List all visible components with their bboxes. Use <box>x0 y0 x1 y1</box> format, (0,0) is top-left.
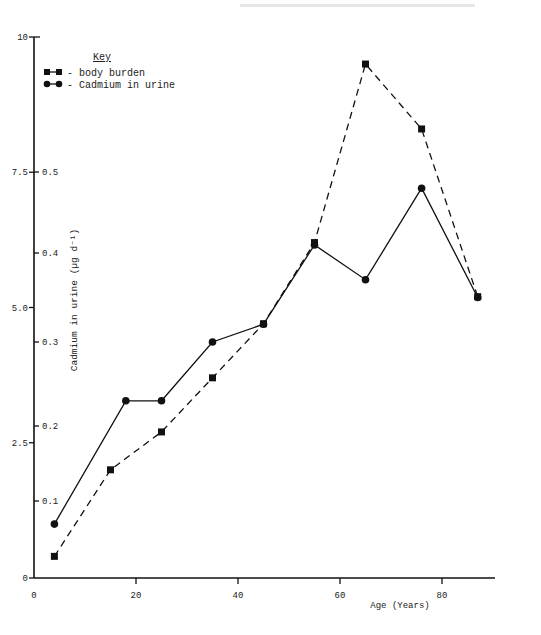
x-tick-label: 40 <box>233 591 244 601</box>
x-tick-label: 20 <box>131 591 142 601</box>
square-marker <box>418 125 425 132</box>
legend: Key- body burden- Cadmium in urine <box>44 52 175 91</box>
circle-marker <box>260 320 268 328</box>
legend-circle-icon <box>44 81 51 88</box>
y-outer-tick-label: 5.0 <box>12 304 28 314</box>
y-outer-tick-label: 7.5 <box>12 168 28 178</box>
circle-marker <box>311 241 319 249</box>
square-marker <box>51 553 58 560</box>
axes: 02.55.07.5100.10.20.30.40.5020406080Age … <box>12 33 495 611</box>
circle-marker <box>474 294 482 302</box>
y-outer-tick-label: 2.5 <box>12 439 28 449</box>
y-outer-tick-label: 0 <box>23 574 28 584</box>
series-cadmium-in-urine <box>51 184 482 527</box>
x-axis-label: Age (Years) <box>370 601 429 611</box>
x-tick-label: 60 <box>335 591 346 601</box>
square-marker <box>362 61 369 68</box>
y-inner-tick-label: 0.5 <box>42 168 58 178</box>
x-tick-label: 80 <box>437 591 448 601</box>
y-inner-tick-label: 0.3 <box>42 338 58 348</box>
square-marker <box>107 466 114 473</box>
legend-entry-label: - Cadmium in urine <box>67 80 175 91</box>
legend-title: Key <box>93 52 111 63</box>
chart: 02.55.07.5100.10.20.30.40.5020406080Age … <box>0 0 541 635</box>
x-tick-label: 0 <box>31 591 36 601</box>
series-layer <box>51 61 482 560</box>
y-outer-tick-label: 10 <box>17 33 28 43</box>
square-marker <box>209 374 216 381</box>
y-inner-tick-label: 0.4 <box>42 249 58 259</box>
circle-marker <box>209 338 217 346</box>
legend-square-icon <box>44 69 50 75</box>
y-inner-tick-label: 0.1 <box>42 497 58 507</box>
circle-marker <box>122 397 130 405</box>
circle-marker <box>362 276 370 284</box>
y-axis-label: Cadmium in urine (µg d⁻¹) <box>69 229 80 372</box>
circle-marker <box>158 397 166 405</box>
square-marker <box>158 428 165 435</box>
y-inner-tick-label: 0.2 <box>42 422 58 432</box>
circle-marker <box>51 520 59 528</box>
legend-entry-label: - body burden <box>67 68 145 79</box>
circle-marker <box>418 184 426 192</box>
series-body-burden <box>51 61 481 560</box>
